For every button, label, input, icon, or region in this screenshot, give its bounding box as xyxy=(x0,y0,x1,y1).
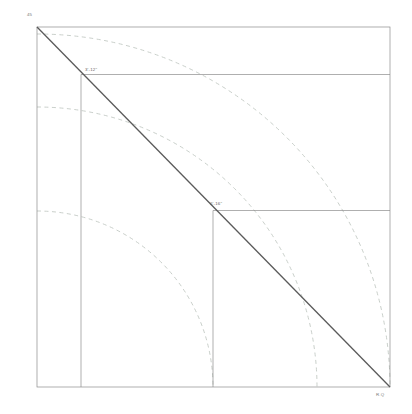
origin-mark-label: R.Q xyxy=(376,393,384,397)
upper-dimension-label: 3'-12" xyxy=(85,68,97,72)
geometry-svg xyxy=(0,0,412,414)
inner-radius-arc xyxy=(37,107,317,387)
hypotenuse-45-degree-line xyxy=(37,27,390,387)
technical-drawing-canvas: 45 3'-12" 6'-16" R.Q xyxy=(0,0,412,414)
lower-dimension-label: 6'-16" xyxy=(210,202,222,206)
corner-angle-label: 45 xyxy=(27,13,32,17)
mid-radius-arc xyxy=(37,211,213,387)
